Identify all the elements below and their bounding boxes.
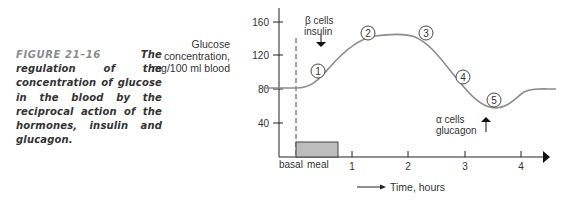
x-tick-label: 3 bbox=[462, 161, 468, 172]
beta-cells-label: β cells bbox=[305, 15, 334, 26]
y-axis-label-line3: mg/100 ml blood bbox=[152, 62, 230, 74]
svg-text:3: 3 bbox=[423, 28, 429, 39]
marker-3: 3 bbox=[419, 26, 433, 40]
y-tick-label: 80 bbox=[258, 84, 270, 95]
y-tick-label: 160 bbox=[252, 17, 269, 28]
glucose-curve bbox=[263, 34, 556, 108]
glucagon-label: glucagon bbox=[436, 125, 477, 136]
y-tick-label: 40 bbox=[258, 118, 270, 129]
marker-1: 1 bbox=[311, 64, 325, 78]
x-tick-label: 4 bbox=[518, 161, 524, 172]
insulin-label: insulin bbox=[304, 26, 332, 37]
x-axis-arrowhead-icon bbox=[543, 151, 550, 163]
alpha-cells-label: α cells bbox=[436, 114, 465, 125]
marker-2: 2 bbox=[361, 26, 375, 40]
x-axis-label: Time, hours bbox=[390, 181, 445, 193]
marker-4: 4 bbox=[456, 70, 470, 84]
glucose-chart: 160 120 80 40 Glucose concentration, mg/… bbox=[0, 0, 574, 201]
y-axis-label-line2: concentration, bbox=[164, 50, 230, 62]
meal-period-box bbox=[296, 142, 338, 157]
marker-5: 5 bbox=[487, 93, 501, 107]
glucagon-up-arrow-icon bbox=[481, 117, 491, 132]
x-tick-label: 2 bbox=[405, 161, 411, 172]
meal-label: meal bbox=[307, 159, 329, 170]
x-tick-label: 1 bbox=[349, 161, 355, 172]
svg-text:2: 2 bbox=[365, 28, 371, 39]
svg-text:5: 5 bbox=[491, 95, 497, 106]
basal-label: basal bbox=[279, 159, 303, 170]
y-axis-label-line1: Glucose bbox=[191, 38, 230, 50]
y-tick-label: 120 bbox=[252, 50, 269, 61]
time-arrowhead-icon bbox=[380, 185, 386, 190]
svg-text:1: 1 bbox=[315, 66, 321, 77]
y-ticks bbox=[273, 22, 283, 123]
svg-text:4: 4 bbox=[460, 72, 466, 83]
x-ticks bbox=[352, 151, 521, 157]
